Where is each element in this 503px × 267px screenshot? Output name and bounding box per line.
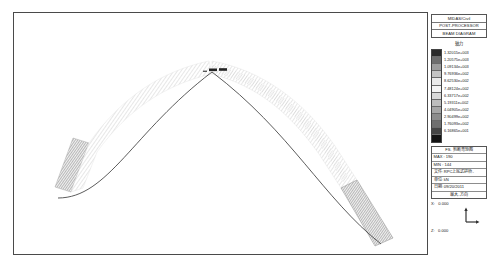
panel-header: MIDAS/Civil POST-PROCESSOR BEAM DIAGRAM: [431, 14, 487, 38]
color-swatch-3: [432, 71, 441, 78]
min-value: 144: [444, 162, 451, 167]
color-swatch-6: [432, 93, 441, 100]
file-label: 文件:: [434, 169, 443, 174]
scale-title: 轴力: [431, 40, 487, 46]
x-label: X:: [431, 201, 435, 206]
color-swatch-7: [432, 100, 441, 107]
scale-value-column: 1.32015e+0031.20575e+0031.09134e+0039.76…: [442, 49, 487, 143]
color-swatch-8: [432, 107, 441, 114]
info-caption: FS. 剪断弯矩图: [432, 147, 486, 155]
scale-value-5: 7.48124e+002: [444, 85, 487, 92]
legend-panel: MIDAS/Civil POST-PROCESSOR BEAM DIAGRAM …: [427, 12, 490, 255]
z-coordinate-row: Z: 0.000: [431, 228, 448, 234]
coordinate-readout: X: 0.000 Z: 0.000: [431, 201, 487, 241]
scale-value-0: 1.32015e+003: [444, 49, 487, 56]
scale-value-2: 1.09134e+003: [444, 63, 487, 70]
color-swatch-1: [432, 57, 441, 64]
scale-value-1: 1.20575e+003: [444, 56, 487, 63]
scale-value-9: 2.90499e+002: [444, 113, 487, 120]
info-box: FS. 剪断弯矩图 MAX : 190 MIN : 144 文件: RPC上底式…: [431, 146, 487, 199]
module-title: POST-PROCESSOR: [432, 22, 486, 30]
color-swatch-2: [432, 64, 441, 71]
scale-value-11: 6.16865e+001: [444, 127, 487, 134]
scale-value-8: 4.04905e+002: [444, 106, 487, 113]
diagram-title: BEAM DIAGRAM: [432, 29, 486, 37]
max-row: MAX : 190: [432, 154, 486, 161]
unit-label: 单位:: [434, 177, 443, 182]
scale-value-4: 8.62530e+002: [444, 77, 487, 84]
z-value: 0.000: [438, 228, 448, 233]
axial-force-band: [55, 61, 393, 246]
axis-indicator-icon: [461, 207, 481, 227]
scale-value-3: 9.76936e+002: [444, 70, 487, 77]
unit-row: 单位: kN: [432, 177, 486, 184]
color-swatch-5: [432, 86, 441, 93]
color-scale[interactable]: 1.32015e+0031.20575e+0031.09134e+0039.76…: [431, 49, 487, 143]
view-caption: 最大-方向: [432, 192, 486, 199]
color-swatch-column: [431, 49, 442, 143]
color-swatch-10: [432, 121, 441, 128]
color-swatch-0: [432, 50, 441, 57]
date-value: 09/20/2011: [444, 184, 464, 189]
unit-value: kN: [444, 177, 449, 182]
date-label: 日期:: [434, 184, 443, 189]
color-swatch-11: [432, 128, 441, 135]
color-swatch-9: [432, 114, 441, 121]
arch-beam-diagram: [13, 12, 427, 255]
model-view-area[interactable]: [13, 12, 427, 255]
scale-value-10: 1.76093e+002: [444, 120, 487, 127]
color-swatch-12: [432, 135, 441, 142]
min-label: MIN: [434, 162, 442, 167]
max-label: MAX: [434, 154, 443, 159]
file-value: RPC上底式拱桥-: [444, 169, 474, 174]
scale-value-6: 6.33717e+002: [444, 92, 487, 99]
force-band-left-span: [71, 61, 212, 192]
app-title: MIDAS/Civil: [432, 15, 486, 22]
date-row: 日期: 09/20/2011: [432, 184, 486, 191]
scale-value-7: 5.19311e+002: [444, 99, 487, 106]
color-swatch-4: [432, 78, 441, 85]
drawing-canvas: MIDAS/Civil POST-PROCESSOR BEAM DIAGRAM …: [0, 0, 503, 267]
z-label: Z:: [431, 228, 435, 233]
min-row: MIN : 144: [432, 162, 486, 169]
x-value: 0.000: [438, 201, 448, 206]
force-band-right-support: [341, 180, 393, 246]
max-value: 190: [446, 154, 453, 159]
file-row: 文件: RPC上底式拱桥-: [432, 169, 486, 176]
